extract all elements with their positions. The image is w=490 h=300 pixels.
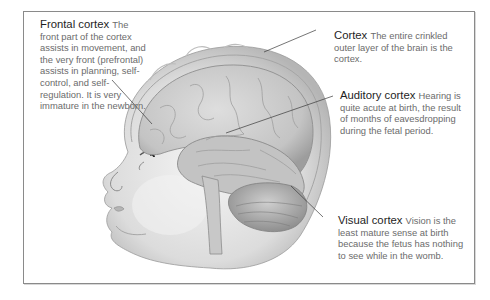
label-title: Frontal cortex — [40, 18, 112, 30]
label-body: The front part of the cortex assists in … — [40, 19, 146, 111]
label-title: Visual cortex — [338, 214, 406, 226]
label-visual-cortex: Visual cortex Vision is the least mature… — [338, 215, 466, 261]
label-frontal-cortex: Frontal cortex The front part of the cor… — [40, 19, 148, 112]
leader-line-cortex — [264, 30, 316, 52]
label-title: Cortex — [334, 29, 370, 41]
label-auditory-cortex: Auditory cortex Hearing is quite acute a… — [340, 90, 464, 136]
label-cortex: Cortex The entire crinkled outer layer o… — [334, 30, 464, 65]
label-title: Auditory cortex — [340, 89, 418, 101]
